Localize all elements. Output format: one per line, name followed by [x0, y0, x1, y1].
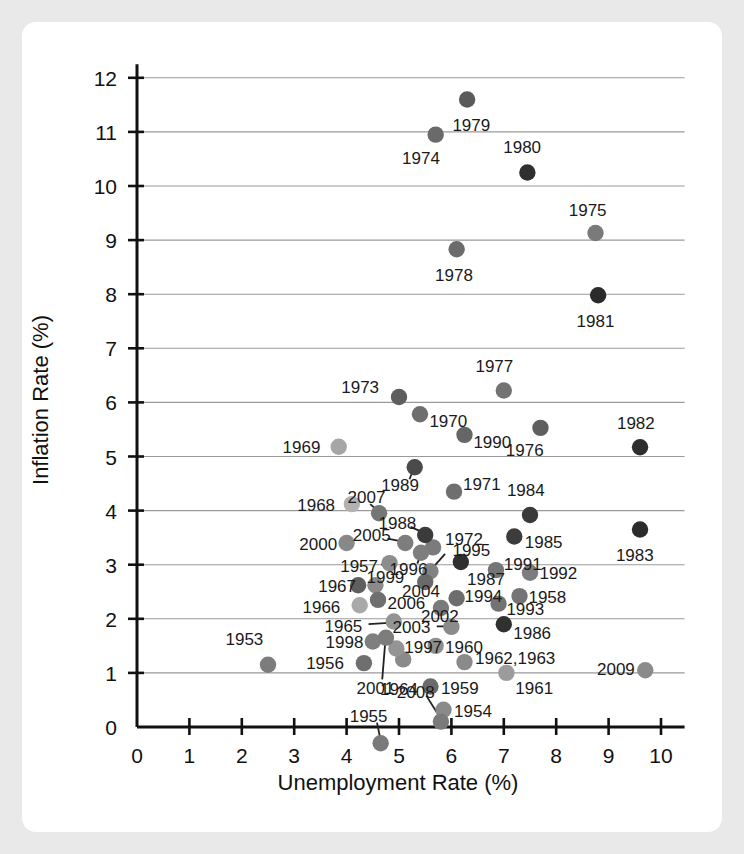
y-axis-title: Inflation Rate (%): [28, 315, 53, 485]
point-label-1982: 1982: [617, 414, 655, 433]
x-axis-ticks: 012345678910: [131, 718, 673, 767]
y-tick-label: 9: [105, 229, 117, 252]
point-label-1955: 1955: [350, 707, 388, 726]
point-label-1975: 1975: [569, 201, 607, 220]
point-label-1984: 1984: [507, 481, 545, 500]
point-label-1992: 1992: [539, 564, 577, 583]
data-point-1985[interactable]: [506, 528, 522, 544]
point-label-1990: 1990: [473, 433, 511, 452]
y-tick-label: 6: [105, 391, 117, 414]
data-point-1988[interactable]: [417, 527, 433, 543]
point-label-1967: 1967: [318, 577, 356, 596]
point-label-1999: 1999: [367, 568, 405, 587]
y-tick-label: 11: [95, 121, 117, 144]
data-point-1977[interactable]: [496, 382, 512, 398]
point-label-1991: 1991: [504, 555, 542, 574]
scatter-plot: 012345678910 0123456789101112 1953195419…: [0, 0, 744, 854]
point-label-2001: 2001: [357, 679, 395, 698]
point-label-1974: 1974: [402, 149, 440, 168]
data-point-1953[interactable]: [260, 657, 276, 673]
point-label-1969: 1969: [283, 438, 321, 457]
chart-svg: 012345678910 0123456789101112 1953195419…: [0, 0, 744, 854]
data-point-1984[interactable]: [522, 507, 538, 523]
x-tick-label: 0: [131, 744, 143, 767]
point-label-1961: 1961: [515, 679, 553, 698]
y-tick-label: 10: [94, 175, 117, 198]
point-label-2005: 2005: [353, 526, 391, 545]
data-point-1971[interactable]: [446, 483, 462, 499]
x-tick-label: 7: [498, 744, 510, 767]
y-tick-label: 0: [105, 716, 117, 739]
point-label-2000: 2000: [299, 535, 337, 554]
point-label-2006: 2006: [387, 594, 425, 613]
point-label-1978: 1978: [435, 266, 473, 285]
y-tick-label: 2: [105, 608, 117, 631]
data-point-1994[interactable]: [448, 590, 464, 606]
data-point-2008[interactable]: [433, 713, 449, 729]
x-tick-label: 4: [341, 744, 353, 767]
point-label-1976: 1976: [506, 441, 544, 460]
x-tick-label: 3: [288, 744, 300, 767]
point-label-1966: 1966: [302, 598, 340, 617]
point-label-1977: 1977: [475, 357, 513, 376]
data-point-1973[interactable]: [391, 389, 407, 405]
point-label-2007: 2007: [348, 488, 386, 507]
point-label-1980: 1980: [503, 138, 541, 157]
data-point-2006[interactable]: [370, 592, 386, 608]
point-label-1985: 1985: [525, 533, 563, 552]
point-label-1981: 1981: [577, 312, 615, 331]
point-label-2009: 2009: [597, 660, 635, 679]
point-label-1998: 1998: [326, 633, 364, 652]
data-point-1956[interactable]: [356, 655, 372, 671]
point-label-2008: 2008: [397, 683, 435, 702]
data-point-1981[interactable]: [590, 287, 606, 303]
data-point-1974[interactable]: [427, 126, 443, 142]
data-point-1978[interactable]: [448, 241, 464, 257]
x-tick-label: 5: [393, 744, 405, 767]
data-point-1989[interactable]: [407, 459, 423, 475]
point-label-1993: 1993: [506, 600, 544, 619]
data-point-1969[interactable]: [331, 439, 347, 455]
x-tick-label: 9: [603, 744, 615, 767]
leader-line-2001: [382, 640, 385, 679]
y-tick-label: 12: [94, 67, 117, 90]
x-axis-title: Unemployment Rate (%): [278, 770, 519, 795]
x-tick-label: 2: [236, 744, 248, 767]
point-label-1983: 1983: [616, 546, 654, 565]
point-label-1989: 1989: [381, 476, 419, 495]
y-tick-label: 4: [105, 500, 117, 523]
y-tick-label: 3: [105, 554, 117, 577]
x-tick-label: 6: [446, 744, 458, 767]
data-point-1982[interactable]: [632, 439, 648, 455]
point-label-1956: 1956: [306, 654, 344, 673]
data-point-1980[interactable]: [519, 164, 535, 180]
point-label-1995: 1995: [452, 541, 490, 560]
point-label-1973: 1973: [341, 378, 379, 397]
data-point-2005[interactable]: [397, 535, 413, 551]
data-point-1983[interactable]: [632, 521, 648, 537]
y-tick-label: 5: [105, 446, 117, 469]
point-label-1959: 1959: [441, 679, 479, 698]
point-label-1986: 1986: [513, 624, 551, 643]
data-point-1976[interactable]: [532, 420, 548, 436]
x-tick-label: 10: [649, 744, 672, 767]
point-label-1979: 1979: [452, 116, 490, 135]
data-point-1975[interactable]: [587, 225, 603, 241]
data-point-2009[interactable]: [637, 662, 653, 678]
y-tick-label: 8: [105, 283, 117, 306]
data-point-1979[interactable]: [459, 91, 475, 107]
point-label-1954: 1954: [454, 702, 492, 721]
data-point-1996[interactable]: [413, 545, 429, 561]
data-point-1966[interactable]: [352, 597, 368, 613]
point-label-1971: 1971: [463, 475, 501, 494]
y-tick-label: 1: [105, 662, 117, 685]
y-tick-label: 7: [105, 337, 117, 360]
point-label-1953: 1953: [226, 630, 264, 649]
data-point-1970[interactable]: [412, 406, 428, 422]
data-point-labels: 1953195419551956195719581959196019611962…: [226, 116, 655, 726]
point-label-1994: 1994: [465, 587, 503, 606]
data-point-1955[interactable]: [372, 735, 388, 751]
point-label-1970: 1970: [429, 412, 467, 431]
point-label-1968: 1968: [297, 496, 335, 515]
point-label-1997: 1997: [404, 638, 442, 657]
